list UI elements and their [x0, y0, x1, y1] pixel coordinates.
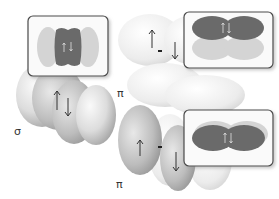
pi-upper-mo-inset	[184, 12, 273, 68]
pi-lower-label: π	[116, 178, 123, 191]
pi-lower-mo-inset	[184, 110, 273, 166]
orbital-diagram: σ π π	[0, 0, 279, 199]
bond-marker-upper	[158, 50, 162, 52]
pi-upper-label: π	[117, 87, 124, 100]
sigma-mo-inset	[28, 16, 108, 76]
bond-marker-lower	[158, 146, 162, 148]
sigma-label: σ	[14, 125, 21, 138]
